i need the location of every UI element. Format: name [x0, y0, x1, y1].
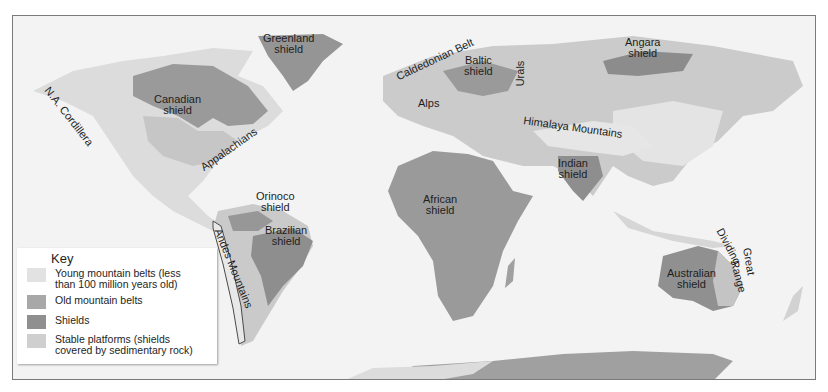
label-brazilian-shield: Brazilian shield: [265, 225, 307, 247]
legend-item-stable-platforms: Stable platforms (shields covered by sed…: [27, 334, 193, 356]
label-baltic-shield: Baltic shield: [464, 55, 493, 77]
legend-item-text: Shields: [55, 315, 89, 326]
map-legend: Key Young mountain belts (less than 100 …: [17, 248, 217, 364]
label-indian-shield: Indian shield: [558, 158, 588, 180]
legend-item-young-mountains: Young mountain belts (less than 100 mill…: [27, 268, 181, 290]
label-alps: Alps: [418, 98, 439, 109]
label-australian-shield: Australian shield: [667, 268, 716, 290]
old-mountains-swatch-icon: [27, 295, 46, 309]
legend-item-text-line2: than 100 million years old): [55, 279, 181, 290]
label-greenland-shield: Greenland shield: [263, 33, 314, 55]
label-urals: Urals: [515, 61, 526, 87]
label-angara-shield: Angara shield: [625, 37, 660, 59]
legend-item-text: Old mountain belts: [55, 295, 143, 306]
label-canadian-shield: Canadian shield: [154, 94, 201, 116]
legend-item-old-mountains: Old mountain belts: [27, 295, 143, 309]
legend-item-text-line2: covered by sedimentary rock): [55, 345, 193, 356]
stable-platforms-swatch-icon: [27, 334, 46, 348]
legend-title: Key: [51, 251, 73, 266]
young-mountains-swatch-icon: [27, 268, 46, 282]
label-orinoco-shield: Orinoco shield: [256, 191, 295, 213]
world-map-frame: Greenland shield Canadian shield N.A. Co…: [12, 15, 816, 380]
shields-swatch-icon: [27, 315, 46, 329]
legend-item-shields: Shields: [27, 315, 89, 329]
label-african-shield: African shield: [423, 194, 457, 216]
